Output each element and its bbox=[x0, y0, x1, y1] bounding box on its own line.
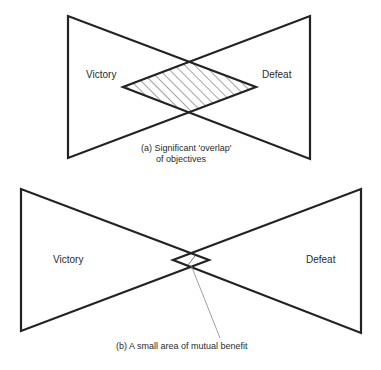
caption-b: (b) A small area of mutual benefit bbox=[116, 341, 248, 351]
diagram-canvas bbox=[0, 0, 381, 370]
defeat-label-b: Defeat bbox=[306, 254, 335, 265]
caption-a-line1: (a) Significant 'overlap' bbox=[141, 143, 231, 153]
victory-triangle-b bbox=[21, 189, 209, 331]
overlap-hatch-b bbox=[188, 256, 195, 265]
victory-label-b: Victory bbox=[53, 254, 83, 265]
defeat-label-a: Defeat bbox=[262, 69, 291, 80]
caption-a-line2: of objectives bbox=[156, 154, 206, 164]
victory-label-a: Victory bbox=[86, 69, 116, 80]
diagram-a bbox=[68, 16, 310, 159]
overlap-region-a bbox=[123, 62, 256, 112]
